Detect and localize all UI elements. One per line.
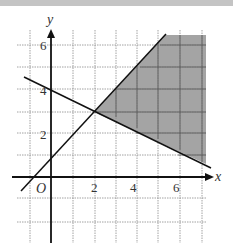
origin-label: O [36,181,46,196]
y-axis-label: y [45,12,54,27]
y-tick-4: 4 [40,83,47,98]
x-tick-6: 6 [173,180,180,195]
y-axis-arrow-icon [47,29,55,38]
graph: y x O 2 4 6 2 4 6 [0,0,233,244]
x-axis-arrow-icon [205,173,214,181]
x-tick-2: 2 [91,180,98,195]
y-tick-2: 2 [40,127,47,142]
x-axis-label: x [214,169,222,184]
shaded-region [94,35,206,164]
x-tick-4: 4 [130,180,137,195]
y-tick-6: 6 [40,38,47,53]
